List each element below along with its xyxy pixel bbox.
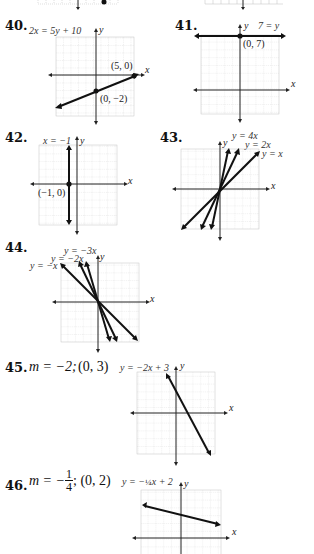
point-label-neg1-0: (−1, 0) bbox=[38, 187, 65, 198]
partial-graph-top-right bbox=[205, 0, 283, 10]
given-slope-45: m = −2; bbox=[29, 359, 77, 375]
axis-label-y-46: y bbox=[184, 478, 188, 489]
axis-label-x-41: x bbox=[291, 78, 295, 89]
point-label-0-7: (0, 7) bbox=[243, 38, 265, 49]
graph-45 bbox=[130, 368, 234, 466]
graph-43 bbox=[172, 143, 272, 241]
problem-number-42: 42. bbox=[5, 130, 28, 145]
axis-label-y-40: y bbox=[99, 24, 103, 35]
slope-denominator-46: 4 bbox=[65, 481, 73, 493]
graph-46 bbox=[132, 484, 236, 554]
given-slope-prefix-46: m = − bbox=[29, 473, 65, 488]
problem-number-40: 40. bbox=[5, 18, 28, 33]
axis-label-y-43: y bbox=[223, 137, 227, 148]
graph-40 bbox=[48, 30, 148, 125]
partial-graph-top-left bbox=[38, 0, 118, 10]
point-label-0-neg2: (0, −2) bbox=[100, 93, 127, 104]
graph-44 bbox=[52, 257, 152, 353]
axis-label-x-43: x bbox=[271, 180, 275, 191]
axis-label-x-46: x bbox=[232, 526, 236, 537]
slope-fraction-46: 14 bbox=[65, 468, 73, 493]
given-slope-text-45: m = −2; bbox=[29, 359, 77, 374]
problem-number-44: 44. bbox=[5, 240, 28, 255]
given-point-45: (0, 3) bbox=[78, 359, 108, 375]
axis-label-x-45: x bbox=[229, 402, 233, 413]
axis-label-x-40: x bbox=[145, 64, 149, 75]
given-slope-46: m = −14; (0, 2) bbox=[29, 468, 111, 493]
axis-label-x-42: x bbox=[128, 175, 132, 186]
axis-label-y-42: y bbox=[80, 135, 84, 146]
axis-label-y-41: y bbox=[244, 20, 248, 31]
problem-number-45: 45. bbox=[5, 360, 28, 375]
point-label-5-0: (5, 0) bbox=[111, 60, 133, 71]
given-point-46: ; (0, 2) bbox=[73, 473, 111, 488]
axis-label-y-44: y bbox=[100, 251, 104, 262]
axis-label-x-44: x bbox=[150, 293, 154, 304]
problem-number-46: 46. bbox=[5, 478, 28, 493]
axis-label-y-45: y bbox=[180, 360, 184, 371]
